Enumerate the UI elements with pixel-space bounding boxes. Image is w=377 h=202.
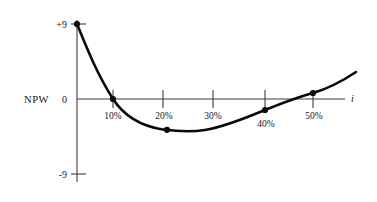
- y-axis-title: NPW: [24, 94, 49, 105]
- x-axis-title: i: [351, 93, 354, 104]
- data-point-40pct: [262, 107, 268, 113]
- data-point-10pct: [110, 96, 116, 102]
- data-point-20pct: [164, 127, 170, 133]
- y-axis-label-zero: 0: [62, 94, 67, 105]
- chart-canvas: +9 0 -9 NPW i 10% 20% 30% 40% 50%: [0, 0, 377, 202]
- data-point-50pct: [310, 90, 316, 96]
- x-axis-label-40pct: 40%: [257, 119, 275, 129]
- x-axis-label-50pct: 50%: [305, 111, 323, 121]
- x-axis-label-10pct: 10%: [104, 111, 122, 121]
- y-axis-label-plus9: +9: [56, 19, 67, 30]
- x-axis-label-30pct: 30%: [204, 111, 222, 121]
- data-point-0pct: [74, 21, 80, 27]
- npw-vs-interest-rate-chart: +9 0 -9 NPW i 10% 20% 30% 40% 50%: [0, 0, 377, 202]
- y-axis-label-minus9: -9: [59, 169, 67, 180]
- x-axis-label-20pct: 20%: [155, 111, 173, 121]
